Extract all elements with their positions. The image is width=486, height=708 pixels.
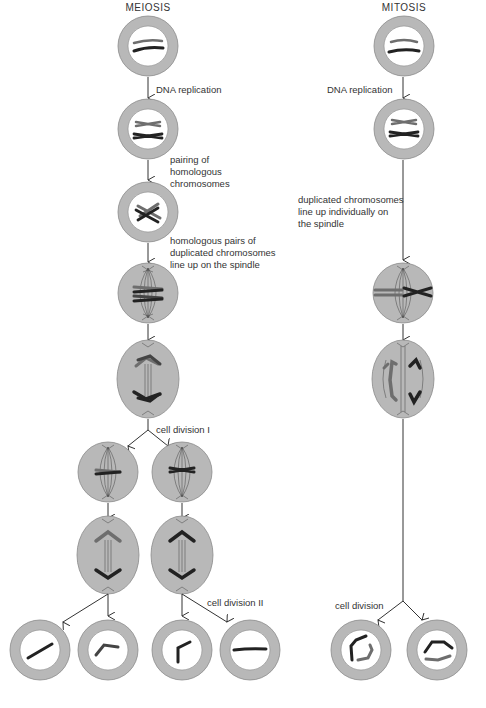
meiosis-dna-replication-label: DNA replication	[156, 84, 221, 95]
gamete-cell-1	[10, 620, 70, 680]
meiosis-cell-anaphase-1	[117, 340, 179, 418]
meiosis-cell-anaphase-2-left	[77, 516, 139, 594]
individual-lineup-label: duplicated chromosomes line up individua…	[298, 194, 406, 229]
mitosis-cell-metaphase	[373, 263, 433, 323]
cell-division-1-label: cell division I	[156, 424, 210, 435]
mitosis-daughter-cell-right	[407, 620, 467, 680]
mitosis-title: MITOSIS	[382, 2, 426, 13]
pairing-label: pairing of homologous chromosomes	[170, 154, 230, 189]
meiosis-cell-replicated	[118, 99, 178, 159]
arrow	[63, 594, 108, 622]
arrow	[403, 601, 422, 620]
cell-division-label: cell division	[335, 600, 384, 611]
mitosis-dna-replication-label: DNA replication	[327, 84, 392, 95]
meiosis-cell-anaphase-2-right	[151, 516, 213, 594]
gamete-cell-4	[220, 620, 280, 680]
gamete-cell-2	[78, 620, 138, 680]
mitosis-cell-start	[374, 16, 434, 76]
meiosis-cell-metaphase-1	[118, 263, 178, 323]
meiosis-title: MEIOSIS	[125, 2, 170, 13]
meiosis-cell-start	[118, 16, 178, 76]
arrow	[128, 430, 148, 446]
meiosis-mitosis-diagram: MEIOSIS MITOSIS DNA replication pairing …	[0, 0, 486, 708]
cell-division-2-label: cell division II	[207, 597, 264, 608]
meiosis-cell-metaphase-2-right	[152, 442, 212, 502]
meiosis-cell-paired	[118, 182, 178, 242]
gamete-cell-3	[152, 620, 212, 680]
mitosis-daughter-cell-left	[331, 620, 391, 680]
homologous-pairs-label: homologous pairs of duplicated chromosom…	[170, 235, 278, 270]
meiosis-cell-metaphase-2-left	[78, 442, 138, 502]
mitosis-cell-anaphase	[372, 340, 434, 418]
mitosis-cell-replicated	[374, 99, 434, 159]
